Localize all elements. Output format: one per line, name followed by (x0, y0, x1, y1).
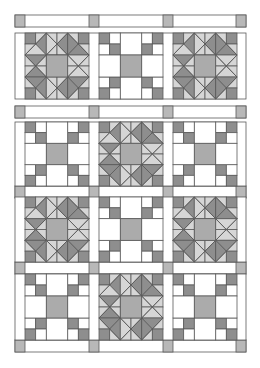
corner-square (152, 122, 163, 133)
sashing-row (15, 106, 246, 118)
white-square (216, 329, 227, 340)
white-square (68, 296, 89, 318)
white-square (216, 122, 227, 133)
corner-square (25, 33, 36, 44)
white-square (120, 197, 141, 219)
dark-square (152, 88, 163, 99)
white-square (99, 77, 110, 88)
white-square (36, 329, 47, 340)
white-square (99, 219, 120, 241)
white-square (142, 88, 153, 99)
corner-square (78, 88, 89, 99)
dark-square (142, 240, 153, 251)
dark-square (152, 33, 163, 44)
corner-square (25, 88, 36, 99)
white-square (184, 175, 195, 186)
center-square (46, 143, 67, 164)
dark-square (25, 122, 36, 133)
white-square (99, 240, 110, 251)
dark-square (110, 208, 121, 219)
dark-square (99, 88, 110, 99)
corner-square (173, 251, 184, 262)
white-square (99, 208, 110, 219)
white-square (216, 175, 227, 186)
star-block (173, 197, 237, 262)
center-square (120, 296, 141, 318)
white-square (152, 240, 163, 251)
white-square (173, 296, 194, 318)
white-square (120, 33, 141, 55)
dark-square (36, 285, 47, 296)
center-square (194, 296, 215, 318)
corner-square (173, 88, 184, 99)
white-square (173, 143, 194, 164)
white-square (68, 175, 79, 186)
cornerstone (15, 106, 25, 118)
white-square (46, 165, 67, 186)
white-square (152, 77, 163, 88)
corner-square (99, 274, 110, 285)
sashing-strip (15, 340, 246, 352)
ninepatch-block (173, 122, 237, 186)
dark-square (184, 318, 195, 329)
dark-square (68, 285, 79, 296)
dark-square (173, 122, 184, 133)
white-square (226, 165, 237, 176)
white-square (173, 133, 184, 144)
block-row (15, 197, 246, 262)
dark-square (78, 274, 89, 285)
cornerstone (89, 186, 99, 198)
center-square (46, 55, 67, 77)
center-square (46, 296, 67, 318)
white-square (226, 285, 237, 296)
dark-square (142, 208, 153, 219)
white-square (36, 175, 47, 186)
sashing-strip (15, 15, 246, 27)
white-square (78, 165, 89, 176)
white-square (25, 285, 36, 296)
cornerstone (163, 262, 173, 274)
dark-square (68, 318, 79, 329)
dark-square (216, 165, 227, 176)
star-block (173, 33, 237, 99)
cornerstone (89, 340, 99, 352)
corner-square (226, 33, 237, 44)
cornerstone (236, 262, 246, 274)
dark-square (99, 197, 110, 208)
white-square (110, 88, 121, 99)
center-square (120, 55, 141, 77)
dark-square (226, 122, 237, 133)
white-square (68, 329, 79, 340)
white-square (36, 122, 47, 133)
dark-square (152, 197, 163, 208)
corner-square (226, 251, 237, 262)
dark-square (36, 165, 47, 176)
block-row (15, 274, 246, 340)
white-square (25, 296, 46, 318)
dark-square (36, 133, 47, 144)
corner-square (99, 122, 110, 133)
cornerstone (89, 15, 99, 27)
white-square (226, 318, 237, 329)
center-square (120, 143, 141, 164)
dark-square (226, 329, 237, 340)
white-square (36, 274, 47, 285)
corner-square (25, 251, 36, 262)
dark-square (110, 240, 121, 251)
center-square (120, 219, 141, 241)
corner-square (99, 329, 110, 340)
dark-square (173, 175, 184, 186)
star-block (25, 33, 89, 99)
white-square (216, 274, 227, 285)
white-square (173, 285, 184, 296)
dark-square (78, 122, 89, 133)
white-square (78, 133, 89, 144)
white-square (25, 143, 46, 164)
white-square (194, 165, 215, 186)
white-square (99, 55, 120, 77)
corner-square (152, 175, 163, 186)
white-square (110, 197, 121, 208)
white-square (226, 133, 237, 144)
ninepatch-block (173, 274, 237, 340)
dark-square (25, 274, 36, 285)
